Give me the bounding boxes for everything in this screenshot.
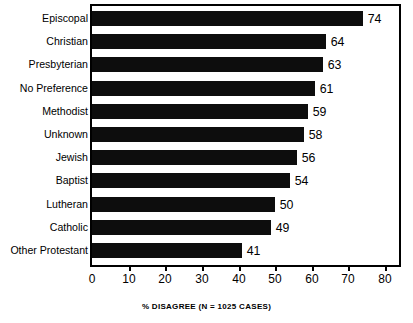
bar-container: 41 xyxy=(92,243,242,258)
bar-value-label: 54 xyxy=(290,173,308,188)
x-axis: 01020304050607080 xyxy=(90,265,401,266)
category-label: Baptist xyxy=(0,173,88,188)
bar-row: Methodist59 xyxy=(0,104,413,119)
x-axis-tick-label: 50 xyxy=(268,272,281,286)
bar xyxy=(92,197,275,212)
bar-value-label: 59 xyxy=(308,104,326,119)
category-label: Methodist xyxy=(0,104,88,119)
x-axis-tick-label: 40 xyxy=(232,272,245,286)
bar-value-label: 49 xyxy=(271,220,289,235)
bar xyxy=(92,104,308,119)
category-label: Catholic xyxy=(0,220,88,235)
bar-value-label: 61 xyxy=(315,81,333,96)
bar-value-label: 56 xyxy=(297,150,315,165)
x-axis-tick-label: 20 xyxy=(159,272,172,286)
bar-container: 58 xyxy=(92,127,304,142)
bar-value-label: 50 xyxy=(275,197,293,212)
bar-container: 63 xyxy=(92,57,323,72)
x-axis-tick-label: 70 xyxy=(342,272,355,286)
bar-chart: Episcopal74Christian64Presbyterian63No P… xyxy=(0,0,413,323)
bar-row: Jewish56 xyxy=(0,150,413,165)
category-label: Christian xyxy=(0,34,88,49)
x-axis-title: % DISAGREE (N = 1025 CASES) xyxy=(0,302,413,311)
bar-value-label: 58 xyxy=(304,127,322,142)
category-label: Unknown xyxy=(0,127,88,142)
bar-row: Catholic49 xyxy=(0,220,413,235)
bar-row: Lutheran50 xyxy=(0,197,413,212)
bar-row: Unknown58 xyxy=(0,127,413,142)
x-axis-tick-label: 80 xyxy=(378,272,391,286)
x-axis-tick-label: 10 xyxy=(122,272,135,286)
bar xyxy=(92,243,242,258)
bar-value-label: 74 xyxy=(363,11,381,26)
category-label: Lutheran xyxy=(0,197,88,212)
bar-row: No Preference61 xyxy=(0,81,413,96)
x-axis-tick-label: 0 xyxy=(89,272,96,286)
bar xyxy=(92,57,323,72)
category-label: No Preference xyxy=(0,81,88,96)
category-label: Episcopal xyxy=(0,11,88,26)
bar-value-label: 41 xyxy=(242,243,260,258)
bar xyxy=(92,11,363,26)
bar-row: Baptist54 xyxy=(0,173,413,188)
bar-row: Episcopal74 xyxy=(0,11,413,26)
bar-container: 61 xyxy=(92,81,315,96)
bar xyxy=(92,127,304,142)
bar-container: 59 xyxy=(92,104,308,119)
bar-container: 56 xyxy=(92,150,297,165)
bar-row: Christian64 xyxy=(0,34,413,49)
bar-container: 54 xyxy=(92,173,290,188)
bar xyxy=(92,34,326,49)
x-axis-tick-label: 60 xyxy=(305,272,318,286)
category-label: Other Protestant xyxy=(0,243,88,258)
bar-value-label: 64 xyxy=(326,34,344,49)
bar xyxy=(92,150,297,165)
bar xyxy=(92,173,290,188)
bar-container: 74 xyxy=(92,11,363,26)
bar-container: 64 xyxy=(92,34,326,49)
bar-row: Presbyterian63 xyxy=(0,57,413,72)
bar-container: 50 xyxy=(92,197,275,212)
category-label: Presbyterian xyxy=(0,57,88,72)
x-axis-tick-label: 30 xyxy=(195,272,208,286)
category-label: Jewish xyxy=(0,150,88,165)
bar-container: 49 xyxy=(92,220,271,235)
bar-value-label: 63 xyxy=(323,57,341,72)
bar xyxy=(92,81,315,96)
bar xyxy=(92,220,271,235)
bar-row: Other Protestant41 xyxy=(0,243,413,258)
